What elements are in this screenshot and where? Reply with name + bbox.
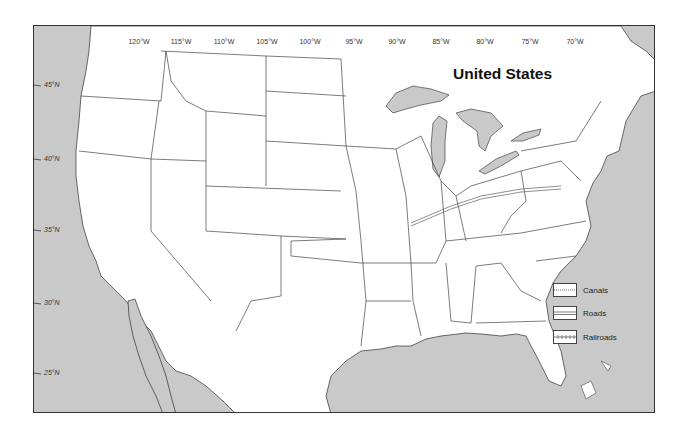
caribbean-islands [581, 361, 611, 399]
canal-swatch-icon [553, 283, 577, 297]
legend-label: Railroads [583, 333, 617, 342]
lon-label-95w: 95°W [345, 38, 362, 45]
road-swatch-icon [553, 306, 577, 320]
lat-label-30n: 30°N [44, 299, 60, 306]
lon-label-100w: 100°W [299, 38, 320, 45]
lat-label-40n: 40°N [44, 155, 60, 162]
lon-label-80w: 80°W [476, 38, 493, 45]
latitude-ticks [34, 85, 41, 374]
lon-label-90w: 90°W [388, 38, 405, 45]
map-title: United States [453, 65, 552, 83]
lon-label-115w: 115°W [171, 38, 192, 45]
lon-label-75w: 75°W [521, 38, 538, 45]
legend-item-roads: Roads [553, 306, 606, 320]
lon-label-105w: 105°W [256, 38, 277, 45]
lon-label-70w: 70°W [566, 38, 583, 45]
legend-label: Canals [583, 286, 608, 295]
lat-label-35n: 35°N [44, 226, 60, 233]
lon-label-85w: 85°W [432, 38, 449, 45]
lon-label-110w: 110°W [214, 38, 235, 45]
lat-label-45n: 45°N [44, 81, 60, 88]
legend-item-railroads: Railroads [553, 330, 617, 344]
legend-item-canals: Canals [553, 283, 608, 297]
lon-label-120w: 120°W [128, 38, 149, 45]
lat-label-25n: 25°N [44, 369, 60, 376]
map-frame [33, 25, 655, 413]
railroad-swatch-icon [553, 330, 577, 344]
legend-label: Roads [583, 309, 606, 318]
us-outline-map [34, 26, 655, 413]
